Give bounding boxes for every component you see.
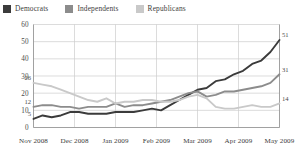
y-tick-label: 50 bbox=[21, 38, 29, 46]
series-end-label-democrats: 51 bbox=[282, 31, 289, 38]
x-tick-label: Jan 2009 bbox=[102, 137, 128, 145]
x-tick-label: Mar 2009 bbox=[183, 137, 212, 145]
x-tick-label: Feb 2009 bbox=[143, 137, 170, 145]
legend-item-independents: Independents bbox=[65, 5, 118, 13]
legend-label: Independents bbox=[77, 5, 118, 12]
line-chart: Democrats Independents Republicans 01020… bbox=[0, 0, 301, 153]
y-tick-label: 40 bbox=[21, 55, 29, 63]
legend-label: Democrats bbox=[15, 5, 48, 12]
x-tick-labels: Nov 2008Dec 2008Jan 2009Feb 2009Mar 2009… bbox=[0, 134, 301, 153]
plot-svg: 0102030405060 55112312614 bbox=[0, 18, 301, 134]
plot-area: 0102030405060 55112312614 bbox=[0, 18, 301, 134]
x-tick-label: Dec 2008 bbox=[60, 137, 88, 145]
legend-item-republicans: Republicans bbox=[136, 5, 186, 13]
legend-label: Republicans bbox=[148, 5, 186, 12]
x-tick-label: May 2009 bbox=[265, 137, 295, 145]
legend-item-democrats: Democrats bbox=[3, 5, 48, 13]
series-end-label-independents: 31 bbox=[282, 66, 289, 73]
series-value-labels: 55112312614 bbox=[24, 31, 289, 117]
y-tick-label: 20 bbox=[21, 90, 29, 98]
series-start-label-republicans: 26 bbox=[24, 74, 31, 81]
y-tick-label: 60 bbox=[21, 21, 29, 29]
y-tick-label: 0 bbox=[25, 124, 29, 132]
series-end-label-republicans: 14 bbox=[282, 95, 289, 102]
x-tick-label: Nov 2008 bbox=[19, 137, 48, 145]
chart-legend: Democrats Independents Republicans bbox=[0, 0, 301, 18]
legend-swatch-icon bbox=[3, 5, 11, 13]
legend-swatch-icon bbox=[65, 5, 73, 13]
series-start-label-democrats: 5 bbox=[28, 110, 32, 117]
x-tick-label: Apr 2009 bbox=[225, 137, 253, 145]
series-start-label-independents: 12 bbox=[24, 98, 31, 105]
legend-swatch-icon bbox=[136, 5, 144, 13]
